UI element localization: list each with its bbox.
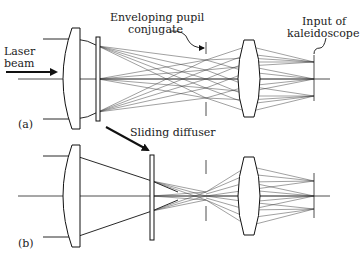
panel-b-label: (b) (18, 237, 34, 250)
diffuser-plate-a (96, 37, 100, 121)
panel-b: Sliding diffuser (b) (18, 126, 330, 250)
condenser-lens-b (63, 145, 80, 247)
relay-lens-a (238, 40, 260, 117)
diffuser-plate-b (150, 155, 154, 240)
kaleido-label-line2: kaleidoscope (287, 27, 359, 40)
condenser-lens-a (63, 28, 80, 129)
panel-a: Laser beam Enveloping pupil conjugate In… (4, 11, 359, 131)
laser-label-line2: beam (4, 57, 35, 70)
kaleido-pointer-a (314, 38, 326, 54)
pupil-label-line2: conjugate (128, 23, 183, 36)
diffuser-label: Sliding diffuser (130, 126, 216, 139)
ray-fan-b (152, 166, 314, 226)
optical-diagram: Laser beam Enveloping pupil conjugate In… (0, 0, 360, 261)
panel-a-label: (a) (18, 118, 33, 131)
relay-lens-b (238, 157, 260, 235)
